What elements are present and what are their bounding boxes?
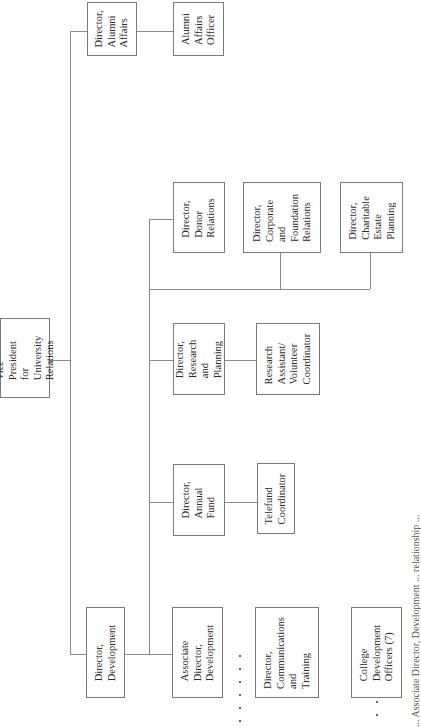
node-college-development-officers: College Development Officers (7) [351, 607, 402, 698]
connector-alumni-officer [137, 31, 173, 32]
node-director-annual-fund: Director, Annual Fund [173, 464, 225, 536]
dotted-connector [239, 655, 241, 657]
node-label: College Development Officers (7) [358, 624, 396, 681]
connector-dev-left [70, 654, 86, 655]
connector-research [149, 360, 173, 361]
node-director-research-planning: Director, Research and Planning [173, 323, 225, 395]
node-label: Vice President for University Relations [0, 336, 56, 380]
node-vice-president: Vice President for University Relations [0, 318, 50, 398]
connector-telefund [225, 502, 257, 503]
node-alumni-affairs-officer: Alumni Affairs Officer [173, 2, 224, 56]
connector-corp-charitable [149, 289, 370, 290]
footnote: ... Associate Director, Development ... … [410, 0, 421, 727]
node-director-corporate-foundation: Director, Corporate and Foundation Relat… [243, 182, 321, 253]
node-director-communications: Director, Communications and Training [255, 607, 319, 698]
node-label: Director, Corporate and Foundation Relat… [251, 194, 314, 242]
node-label: Telefund Coordinator [263, 473, 288, 524]
node-research-assistant: Research Assistant/ Volunteer Coordinato… [256, 323, 320, 395]
connector-charitable [370, 253, 371, 289]
node-label: Director, Research and Planning [174, 340, 224, 378]
dotted-connector [239, 668, 241, 670]
spine-development [149, 219, 150, 655]
dotted-connector [239, 707, 241, 709]
node-label: Director, Communications and Training [262, 617, 312, 689]
node-label: Associate Director, Development [179, 624, 217, 681]
dotted-connector [239, 681, 241, 683]
connector-donor [149, 219, 173, 220]
node-label: Director, Donor Relations [180, 198, 218, 238]
node-telefund-coordinator: Telefund Coordinator [257, 463, 295, 534]
connector-corp [280, 253, 281, 289]
node-label: Director, Annual Fund [180, 481, 218, 518]
node-label: Director, Charitable Estate Planning [346, 196, 396, 240]
connector-research-asst [225, 360, 256, 361]
connector-annual [149, 502, 173, 503]
connector-alumni [70, 31, 87, 32]
dotted-connector [239, 720, 241, 722]
dotted-connector [376, 701, 378, 703]
node-director-development: Director, Development [86, 607, 125, 698]
dotted-connector [239, 694, 241, 696]
node-label: Director, Alumni Affairs [93, 10, 131, 47]
node-director-charitable-estate: Director, Charitable Estate Planning [340, 182, 403, 253]
node-label: Alumni Affairs Officer [180, 13, 218, 45]
node-label: Director, Development [93, 624, 118, 681]
dotted-connector [376, 714, 378, 716]
node-label: Research Assistant/ Volunteer Coordinato… [263, 334, 313, 385]
node-associate-director-development: Associate Director, Development [172, 607, 223, 698]
node-director-donor-relations: Director, Donor Relations [173, 182, 225, 253]
node-director-alumni-affairs: Director, Alumni Affairs [87, 2, 137, 56]
spine-vp [70, 31, 71, 655]
